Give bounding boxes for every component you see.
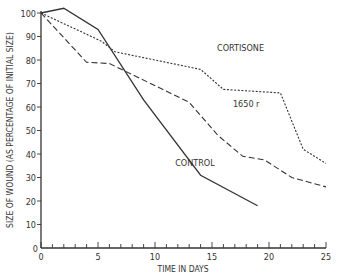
wound-healing-chart: 05101520250102030405060708090100 CORTISO…	[0, 0, 341, 280]
y-tick-label: 80	[26, 56, 36, 66]
series-labels: CORTISONE1650 rCONTROL	[175, 43, 264, 168]
x-tick-label: 15	[207, 252, 217, 262]
y-tick-label: 100	[21, 9, 36, 19]
x-tick-label: 25	[321, 252, 331, 262]
x-tick-label: 5	[95, 252, 100, 262]
y-tick-label: 20	[26, 197, 36, 207]
y-tick-label: 30	[26, 173, 36, 183]
x-tick-label: 20	[264, 252, 274, 262]
y-tick-label: 60	[26, 103, 36, 113]
y-tick-label: 70	[26, 79, 36, 89]
axes: 05101520250102030405060708090100	[21, 9, 332, 263]
x-tick-label: 0	[38, 252, 43, 262]
y-axis-label: SIZE OF WOUND (AS PERCENTAGE OF INITIAL …	[5, 32, 15, 228]
series-control	[41, 8, 258, 205]
x-tick-label: 10	[150, 252, 160, 262]
label-control: CONTROL	[175, 158, 215, 168]
series-lines	[41, 8, 326, 205]
label-1650-r: 1650 r	[233, 99, 260, 109]
y-tick-label: 40	[26, 150, 36, 160]
series-cortisone	[41, 13, 326, 163]
label-cortisone: CORTISONE	[217, 43, 264, 53]
y-tick-label: 0	[33, 244, 38, 254]
x-axis-label: TIME IN DAYS	[156, 264, 208, 274]
y-tick-label: 90	[26, 32, 36, 42]
y-tick-label: 50	[26, 126, 36, 136]
y-tick-label: 10	[26, 220, 36, 230]
